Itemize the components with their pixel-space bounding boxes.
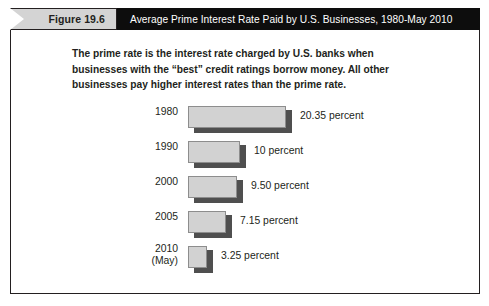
bar-face — [188, 246, 207, 268]
figure-title-bar: Average Prime Interest Rate Paid by U.S.… — [117, 8, 480, 30]
category-label-2010: 2010 (May) — [116, 243, 178, 266]
chart-row: 1990 10 percent — [11, 141, 479, 176]
figure-header: Figure 19.6 Average Prime Interest Rate … — [10, 8, 480, 30]
bar-face — [188, 141, 240, 163]
category-label-1980: 1980 — [116, 106, 178, 118]
bar-chart: 1980 20.35 percent 1990 — [11, 106, 479, 281]
figure-body-panel: The prime rate is the interest rate char… — [10, 30, 480, 294]
bar-bottom-shadow — [194, 163, 246, 168]
category-label-2005: 2005 — [116, 211, 178, 223]
bar-bottom-shadow — [194, 198, 243, 203]
value-label-2010: 3.25 percent — [221, 250, 279, 261]
bar-face — [188, 106, 286, 128]
value-label-1980: 20.35 percent — [300, 110, 364, 121]
figure-number-label: Figure 19.6 — [48, 13, 105, 25]
bar-face — [188, 211, 226, 233]
figure-container: Figure 19.6 Average Prime Interest Rate … — [0, 0, 489, 306]
chart-row: 2000 9.50 percent — [11, 176, 479, 211]
bar-bottom-shadow — [194, 128, 292, 133]
category-label-1990: 1990 — [116, 141, 178, 153]
figure-description: The prime rate is the interest rate char… — [72, 46, 427, 93]
chart-row: 2010 (May) 3.25 percent — [11, 246, 479, 281]
bar-bottom-shadow — [194, 233, 232, 238]
bar-face — [188, 176, 237, 198]
figure-title: Average Prime Interest Rate Paid by U.S.… — [130, 14, 452, 25]
chart-row: 2005 7.15 percent — [11, 211, 479, 246]
category-label-2000: 2000 — [116, 176, 178, 188]
figure-number-tab: Figure 19.6 — [10, 8, 117, 30]
value-label-1990: 10 percent — [254, 145, 303, 156]
bar-bottom-shadow — [194, 268, 213, 273]
chart-row: 1980 20.35 percent — [11, 106, 479, 141]
value-label-2005: 7.15 percent — [240, 215, 298, 226]
value-label-2000: 9.50 percent — [251, 180, 309, 191]
